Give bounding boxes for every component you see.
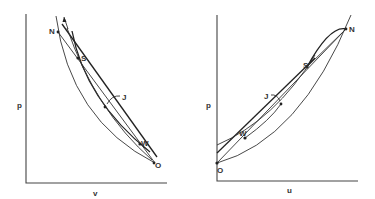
left-point-N [57,31,60,34]
right-panel-p-u: p u O W J S N [206,15,358,195]
left-point-S [76,56,79,59]
right-chord-S-N [307,29,346,67]
left-label-N: N [49,27,55,36]
right-chord-O-N [217,29,346,163]
right-curve-lower [217,15,351,163]
left-label-J: J [122,93,126,102]
right-point-J [280,103,283,106]
left-label-W: W [141,139,149,148]
right-point-N [345,28,348,31]
figure: p v N S J W O p u [0,0,375,199]
right-y-label: p [206,101,211,110]
right-label-W: W [239,129,247,138]
left-panel-p-v: p v N S J W O [17,14,167,198]
right-label-J: J [264,92,268,101]
left-y-label: p [17,101,22,110]
right-point-O [215,161,218,164]
left-point-J [104,106,107,109]
right-axes [217,15,358,181]
right-x-label: u [287,186,292,195]
left-x-label: v [93,189,98,198]
left-rayleigh-line [62,24,157,157]
right-label-O: O [217,166,223,175]
left-label-O: O [155,161,161,170]
right-label-N: N [349,25,355,34]
right-label-S: S [303,61,309,70]
left-label-S: S [81,54,87,63]
